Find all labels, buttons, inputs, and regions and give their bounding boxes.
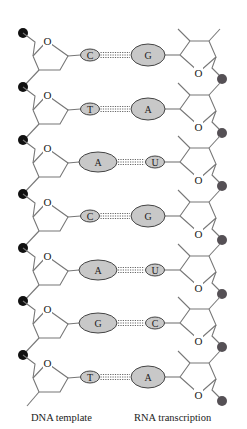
dna-base-letter: G (94, 318, 101, 329)
base-pair-row: OOAU (18, 243, 227, 302)
dna-base-letter: T (87, 372, 93, 383)
rna-backbone-link (209, 351, 220, 363)
base-pair-row: OOTA (18, 350, 227, 406)
rna-base-letter: U (151, 157, 159, 168)
dna-glycosidic-bond (68, 109, 81, 110)
ring-oxygen-label: O (44, 250, 52, 262)
rna-base-letter: U (151, 265, 159, 276)
base-pair-row: OOGC (18, 296, 227, 355)
dna-glycosidic-bond (68, 55, 81, 56)
ring-oxygen-label: O (44, 142, 52, 154)
dna-glycosidic-bond (68, 270, 79, 271)
base-pair-row: OOAU (18, 135, 227, 194)
ring-oxygen-label: O (44, 357, 52, 369)
rna-backbone-link (209, 29, 220, 41)
dna-base-letter: C (87, 50, 94, 61)
ring-oxygen-label: O (195, 67, 203, 79)
base-pair-row: OOTA (18, 82, 227, 141)
dna-glycosidic-bond (68, 216, 81, 217)
rna-substituent (178, 29, 190, 41)
rna-backbone-link (209, 190, 220, 202)
rna-phosphate-dot (217, 74, 227, 84)
ring-oxygen-label: O (44, 35, 52, 47)
rna-substituent (178, 190, 190, 202)
ring-oxygen-label: O (195, 228, 203, 240)
rna-phosphate-dot (217, 181, 227, 191)
dna-base-letter: C (87, 211, 94, 222)
rna-base-letter: A (144, 104, 152, 115)
dna-glycosidic-bond (68, 323, 79, 324)
rna-backbone-link (209, 83, 220, 95)
rna-substituent (178, 83, 190, 95)
rna-backbone-link (209, 136, 220, 148)
rna-phosphate-dot (217, 289, 227, 299)
dna-backbone-tail (27, 392, 39, 406)
rna-substituent (178, 136, 190, 148)
ring-oxygen-label: O (44, 303, 52, 315)
ring-oxygen-label: O (44, 89, 52, 101)
base-pair-row: OOCG (18, 28, 227, 87)
dna-base-letter: A (94, 265, 102, 276)
dna-base-letter: T (87, 104, 93, 115)
ring-oxygen-label: O (195, 389, 203, 401)
ring-oxygen-label: O (44, 196, 52, 208)
rna-phosphate-dot (217, 235, 227, 245)
dna-glycosidic-bond (68, 162, 79, 163)
ring-oxygen-label: O (195, 282, 203, 294)
ring-oxygen-label: O (195, 335, 203, 347)
rna-backbone-link (209, 244, 220, 256)
rna-base-letter: G (144, 211, 151, 222)
ring-oxygen-label: O (195, 174, 203, 186)
rna-substituent (178, 297, 190, 309)
rna-substituent (178, 351, 190, 363)
rna-substituent (178, 244, 190, 256)
dna-glycosidic-bond (68, 377, 81, 378)
dna-base-letter: A (94, 157, 102, 168)
dna-template-caption: DNA template (31, 412, 92, 423)
ring-oxygen-label: O (195, 121, 203, 133)
rna-phosphate-dot (217, 128, 227, 138)
rna-backbone-link (209, 297, 220, 309)
rna-phosphate-dot (217, 396, 227, 406)
rna-base-letter: G (144, 50, 151, 61)
rna-base-letter: A (144, 372, 152, 383)
rna-phosphate-dot (217, 342, 227, 352)
dna-rna-diagram: OOCGOOTAOOAUOOCGOOAUOOGCOOTA (0, 0, 247, 429)
base-pair-row: OOCG (18, 189, 227, 248)
rna-base-letter: C (152, 318, 159, 329)
rna-transcription-caption: RNA transcription (134, 412, 211, 423)
